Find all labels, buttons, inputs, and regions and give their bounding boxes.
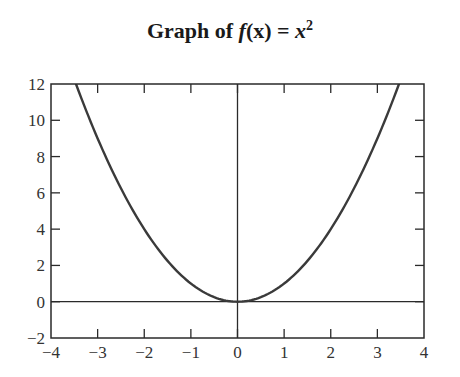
y-tick-label: 12	[28, 75, 45, 94]
y-tick-label: 6	[37, 184, 46, 203]
x-tick-label: −3	[89, 343, 107, 362]
x-tick-label: 1	[280, 343, 289, 362]
y-tick-label: 2	[37, 256, 46, 275]
y-tick-labels: −2024681012	[27, 75, 46, 348]
x-tick-label: 0	[233, 343, 242, 362]
y-tick-label: 4	[37, 220, 46, 239]
y-tick-label: 8	[37, 148, 46, 167]
plot-area: −4−3−2−101234 −2024681012	[0, 0, 460, 377]
x-tick-label: 4	[420, 343, 429, 362]
y-tick-label: 10	[28, 111, 45, 130]
x-tick-label: −1	[182, 343, 200, 362]
x-tick-label: 2	[327, 343, 336, 362]
reference-lines	[51, 84, 424, 338]
x-tick-labels: −4−3−2−101234	[42, 343, 429, 362]
y-tick-label: 0	[37, 293, 46, 312]
x-tick-label: 3	[373, 343, 382, 362]
x-tick-label: −2	[135, 343, 153, 362]
y-tick-label: −2	[27, 329, 45, 348]
